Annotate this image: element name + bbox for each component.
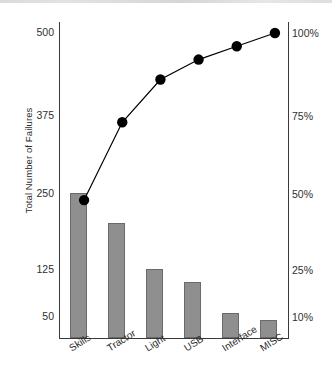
bar-skills xyxy=(70,193,87,338)
pareto-chart: Total Number of Failures 500 375 250 125… xyxy=(0,0,332,379)
bar-light xyxy=(146,269,163,338)
bar-series xyxy=(0,0,332,379)
bar-tractor xyxy=(108,223,125,338)
bar-usb xyxy=(184,282,201,338)
